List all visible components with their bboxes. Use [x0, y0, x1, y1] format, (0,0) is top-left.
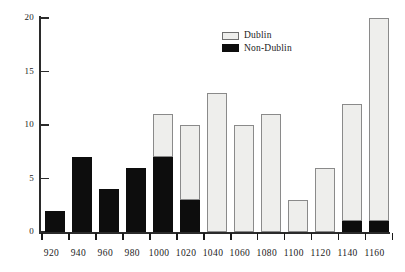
x-axis-tick-label: 1000 — [146, 249, 173, 259]
x-axis-tick — [392, 233, 394, 240]
bar-segment-dublin — [288, 200, 308, 232]
x-axis-tick-label: 920 — [38, 249, 65, 259]
bar-group-960 — [99, 189, 119, 232]
bar-group-1120 — [315, 168, 335, 232]
x-axis-tick — [122, 233, 124, 240]
legend-item-nondublin: Non-Dublin — [222, 43, 292, 55]
y-axis-tick — [40, 17, 49, 19]
bar-segment-non-dublin — [369, 221, 389, 232]
bar-segment-non-dublin — [99, 189, 119, 232]
bar-segment-dublin — [180, 125, 200, 200]
chart-legend: DublinNon-Dublin — [222, 30, 292, 55]
bar-group-1040 — [207, 93, 227, 232]
bar-segment-dublin — [207, 93, 227, 232]
x-axis-tick-label: 1060 — [226, 249, 253, 259]
y-axis-tick-label: 20 — [8, 13, 34, 22]
bar-group-1080 — [261, 114, 281, 232]
x-axis-tick-label: 1080 — [253, 249, 280, 259]
x-axis-tick-label: 1040 — [200, 249, 227, 259]
bar-segment-non-dublin — [72, 157, 92, 232]
x-axis-tick — [203, 233, 205, 240]
x-axis-tick — [338, 233, 340, 240]
y-axis-tick-label: 15 — [8, 67, 34, 76]
x-axis-tick — [230, 233, 232, 240]
x-axis-tick-label: 1020 — [173, 249, 200, 259]
bar-segment-dublin — [369, 18, 389, 221]
bar-group-940 — [72, 157, 92, 232]
y-axis-tick — [40, 71, 49, 73]
legend-item-dublin: Dublin — [222, 30, 292, 42]
bar-group-920 — [45, 211, 65, 232]
x-axis-tick-label: 940 — [65, 249, 92, 259]
bar-group-1140 — [342, 104, 362, 232]
legend-swatch-dublin — [222, 32, 239, 40]
y-axis-tick-label: 10 — [8, 120, 34, 129]
legend-label: Dublin — [244, 30, 272, 42]
y-axis-tick-label: 5 — [8, 174, 34, 183]
y-axis-tick — [40, 178, 49, 180]
x-axis-tick-label: 960 — [92, 249, 119, 259]
bar-segment-non-dublin — [126, 168, 146, 232]
bar-segment-dublin — [315, 168, 335, 232]
x-axis-tick — [68, 233, 70, 240]
bar-segment-non-dublin — [180, 200, 200, 232]
legend-swatch-nondublin — [222, 44, 239, 52]
legend-label: Non-Dublin — [244, 43, 292, 55]
bar-segment-dublin — [153, 114, 173, 157]
x-axis-tick-label: 980 — [119, 249, 146, 259]
bar-group-1160 — [369, 18, 389, 232]
x-axis-tick — [41, 233, 43, 240]
bar-segment-non-dublin — [342, 221, 362, 232]
chart-screenshot: 05101520 9209409609801000102010401060108… — [0, 0, 405, 272]
bar-group-1060 — [234, 125, 254, 232]
bar-group-1000 — [153, 114, 173, 232]
bar-segment-dublin — [234, 125, 254, 232]
x-axis-tick-label: 1120 — [307, 249, 334, 259]
x-axis-tick-label: 1100 — [280, 249, 307, 259]
x-axis-tick — [95, 233, 97, 240]
y-axis-tick-label: 0 — [8, 227, 34, 236]
bar-segment-non-dublin — [45, 211, 65, 232]
bar-group-980 — [126, 168, 146, 232]
bar-segment-dublin — [342, 104, 362, 222]
x-axis-tick — [257, 233, 259, 240]
bar-segment-dublin — [261, 114, 281, 232]
bar-group-1100 — [288, 200, 308, 232]
bar-group-1020 — [180, 125, 200, 232]
x-axis-tick — [149, 233, 151, 240]
y-axis-tick — [40, 124, 49, 126]
x-axis-tick — [176, 233, 178, 240]
x-axis-tick — [365, 233, 367, 240]
x-axis-tick — [284, 233, 286, 240]
bar-segment-non-dublin — [153, 157, 173, 232]
plot-area: 05101520 9209409609801000102010401060108… — [0, 0, 405, 272]
x-axis-tick — [311, 233, 313, 240]
x-axis-tick-label: 1140 — [334, 249, 361, 259]
x-axis-tick-label: 1160 — [361, 249, 388, 259]
